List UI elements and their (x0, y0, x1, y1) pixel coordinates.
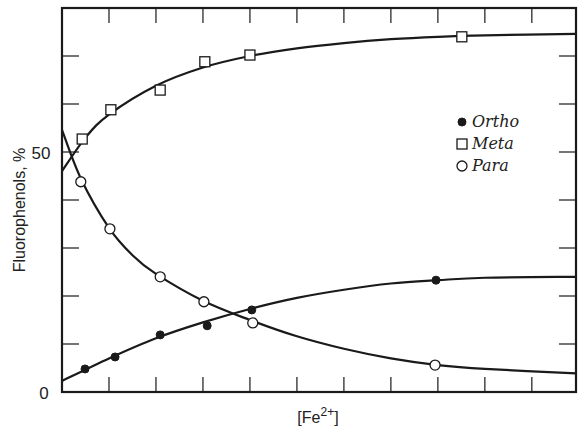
fluorophenols-chart: 0 50 Fluorophenols, % [Fe2+] OrthoMetaPa… (0, 0, 588, 435)
y-tick-label-50: 50 (32, 144, 51, 163)
para-data-point (430, 360, 440, 370)
ortho-curve (62, 277, 576, 381)
y-axis-title: Fluorophenols, % (11, 148, 28, 273)
data-markers (76, 32, 467, 373)
ortho-data-point (111, 353, 119, 361)
x-axis-title: [Fe2+] (297, 405, 338, 426)
para-data-point (105, 224, 115, 234)
para-data-point (248, 318, 258, 328)
ortho-data-point (248, 306, 256, 314)
legend-ortho-label: Ortho (472, 112, 519, 131)
legend: OrthoMetaPara (457, 112, 519, 175)
legend-para-label: Para (471, 156, 509, 175)
ortho-data-point (156, 331, 164, 339)
meta-data-point (106, 105, 116, 115)
ortho-data-point (81, 365, 89, 373)
meta-data-point (155, 85, 165, 95)
plot-frame (62, 8, 576, 392)
meta-data-point (200, 57, 210, 67)
para-data-point (76, 177, 86, 187)
para-data-point (199, 297, 209, 307)
meta-data-point (77, 134, 87, 144)
fitted-curves (62, 34, 576, 381)
meta-data-point (457, 32, 467, 42)
ortho-data-point (432, 276, 440, 284)
meta-data-point (245, 50, 255, 60)
axis-ticks (62, 8, 576, 392)
ortho-data-point (203, 322, 211, 330)
legend-meta-marker (457, 139, 467, 149)
legend-ortho-marker (458, 118, 466, 126)
para-data-point (155, 272, 165, 282)
legend-para-marker (457, 161, 467, 171)
y-tick-label-0: 0 (39, 384, 48, 403)
legend-meta-label: Meta (471, 134, 514, 153)
